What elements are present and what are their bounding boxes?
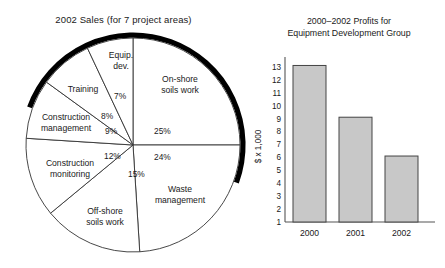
- pie-slice-percentage: 8%: [101, 111, 114, 121]
- x-axis-category-label: 2000: [300, 228, 319, 238]
- pie-slice-percentage: 24%: [154, 152, 171, 162]
- pie-slice-label: Constructionmonitoring: [46, 158, 94, 179]
- y-axis-tick-label: 4: [276, 179, 281, 188]
- bar: [293, 65, 326, 222]
- y-axis-tick-label: 1: [276, 218, 281, 227]
- y-axis-tick-label: 12: [272, 76, 282, 85]
- y-axis-tick-label: 6: [276, 153, 281, 162]
- y-axis-tick-label: 11: [273, 89, 282, 98]
- pie-slice-percentage: 12%: [104, 151, 121, 161]
- pie-slice-percentage: 9%: [105, 126, 118, 136]
- y-axis-tick-label: 13: [272, 63, 282, 72]
- y-axis-tick-label: 5: [276, 166, 281, 175]
- bar: [385, 156, 418, 222]
- y-axis-tick-label: 7: [276, 140, 281, 149]
- pie-slice-label: Constructionmanagement: [41, 112, 92, 133]
- x-axis-category-label: 2001: [346, 228, 365, 238]
- y-axis-tick-label: 10: [272, 102, 282, 111]
- y-axis-tick-label: 9: [276, 115, 281, 124]
- pie-chart-graphic: On-shoresoils workWastemanagementOff-sho…: [0, 0, 247, 268]
- bar-chart-panel: 2000–2002 Profits for Equipment Developm…: [247, 0, 445, 268]
- pie-slice-percentage: 7%: [114, 91, 127, 101]
- y-axis-tick-label: 3: [276, 192, 281, 201]
- bar: [339, 117, 372, 222]
- bar-chart-graphic: 12345678910111213200020012002$ x 1,000: [247, 0, 445, 268]
- pie-slice-percentage: 15%: [128, 169, 145, 179]
- pie-slice-label: On-shoresoils work: [161, 74, 199, 95]
- two-chart-figure: 2002 Sales (for 7 project areas) On-shor…: [0, 0, 445, 268]
- y-axis-title: $ x 1,000: [254, 129, 263, 163]
- pie-slice-label: Off-shoresoils work: [86, 206, 124, 227]
- x-axis-category-label: 2002: [392, 228, 411, 238]
- pie-slice-percentage: 25%: [154, 126, 171, 136]
- pie-slice-label: Training: [68, 84, 99, 94]
- y-axis-tick-label: 8: [276, 127, 281, 136]
- pie-chart-panel: 2002 Sales (for 7 project areas) On-shor…: [0, 0, 247, 268]
- y-axis-tick-label: 2: [276, 205, 281, 214]
